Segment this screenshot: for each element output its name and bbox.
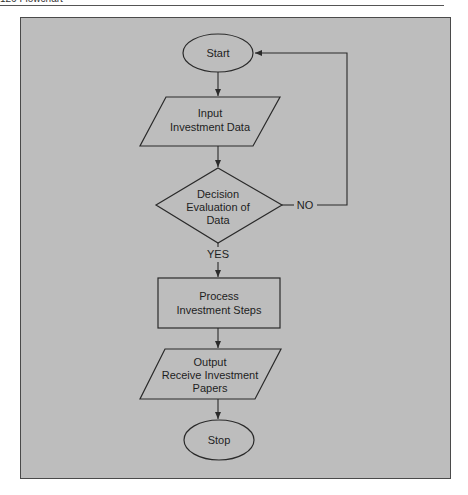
edge-decision-start-no: NO	[255, 53, 347, 211]
output-label-line2: Receive Investment	[162, 369, 259, 381]
stop-node: Stop	[184, 420, 254, 460]
input-node: Input Investment Data	[140, 97, 280, 146]
decision-label-line1: Decision	[197, 188, 239, 200]
flowchart: Start Input Investment Data Decision Eva…	[0, 0, 468, 495]
process-node: Process Investment Steps	[158, 278, 280, 328]
decision-label-line2: Evaluation of	[186, 201, 251, 213]
input-label-line2: Investment Data	[170, 121, 251, 133]
process-label-line1: Process	[199, 290, 239, 302]
yes-label: YES	[207, 248, 229, 260]
decision-node: Decision Evaluation of Data	[156, 168, 282, 243]
decision-label-line3: Data	[206, 214, 230, 226]
start-node: Start	[183, 34, 253, 72]
output-label-line1: Output	[193, 356, 226, 368]
process-label-line2: Investment Steps	[177, 304, 262, 316]
input-label-line1: Input	[198, 107, 222, 119]
no-label: NO	[297, 199, 314, 211]
start-label: Start	[206, 47, 229, 59]
output-label-line3: Papers	[193, 382, 228, 394]
stop-label: Stop	[208, 434, 231, 446]
edge-decision-process-yes: YES	[207, 243, 229, 277]
output-node: Output Receive Investment Papers	[140, 349, 281, 399]
